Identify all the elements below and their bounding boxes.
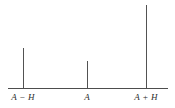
tick-label-a-plus-h-text: A + H: [134, 92, 157, 102]
spike-bar-a-plus-h: [146, 5, 147, 88]
spike-bar-a: [87, 61, 88, 88]
tick-label-a-plus-h: A + H: [123, 92, 169, 103]
tick-label-a-minus-h: A − H: [0, 92, 46, 103]
spike-plot-figure: A − H A A + H: [0, 0, 175, 108]
spike-bar-a-minus-h: [23, 48, 24, 88]
plot-area: A − H A A + H: [0, 0, 175, 108]
tick-label-a-minus-h-text: A − H: [11, 92, 34, 102]
tick-label-a-text: A: [84, 92, 90, 102]
tick-label-a: A: [64, 92, 110, 103]
horizontal-axis: [8, 88, 168, 89]
